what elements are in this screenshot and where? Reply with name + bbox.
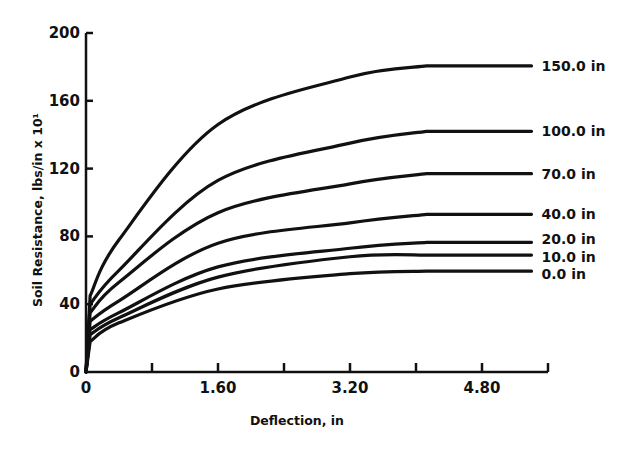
axis-lines bbox=[86, 33, 548, 372]
y-axis-title: Soil Resistance, lbs/in x 10¹ bbox=[30, 113, 45, 307]
series-label: 0.0 in bbox=[542, 266, 586, 282]
series-label: 70.0 in bbox=[542, 166, 596, 182]
y-tick-label: 0 bbox=[70, 363, 80, 381]
y-tick-label: 200 bbox=[49, 24, 80, 42]
series-curve bbox=[86, 271, 532, 372]
series-curve bbox=[86, 66, 532, 372]
y-tick-label: 120 bbox=[49, 160, 80, 178]
x-tick-label: 1.60 bbox=[199, 379, 236, 397]
series-label: 150.0 in bbox=[542, 58, 606, 74]
y-tick-label: 160 bbox=[49, 92, 80, 110]
chart: 0408012016020001.603.204.80Deflection, i… bbox=[0, 0, 618, 453]
x-tick-label: 0 bbox=[81, 379, 91, 397]
series-label: 10.0 in bbox=[542, 249, 596, 265]
series-label: 20.0 in bbox=[542, 231, 596, 247]
axes bbox=[86, 33, 548, 372]
x-axis-title: Deflection, in bbox=[250, 413, 344, 428]
series-curve bbox=[86, 174, 532, 372]
y-tick-label: 80 bbox=[59, 227, 80, 245]
x-tick-label: 4.80 bbox=[463, 379, 500, 397]
series-label: 40.0 in bbox=[542, 206, 596, 222]
curves bbox=[86, 66, 532, 372]
series-label: 100.0 in bbox=[542, 123, 606, 139]
x-tick-label: 3.20 bbox=[331, 379, 368, 397]
y-tick-label: 40 bbox=[59, 295, 80, 313]
